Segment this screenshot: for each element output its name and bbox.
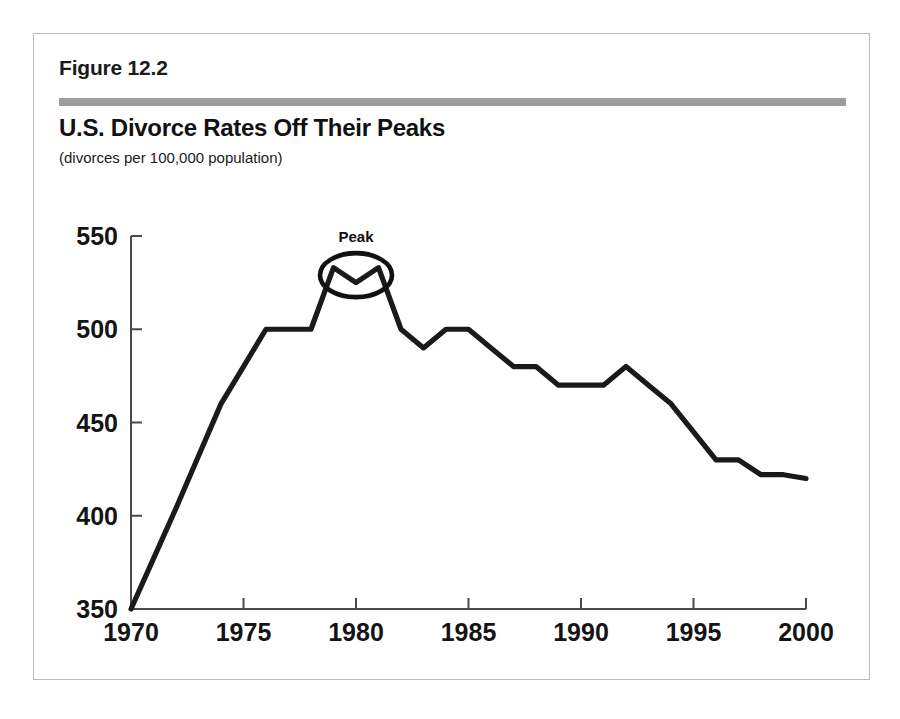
x-axis-tick-labels: 1970197519801985199019952000 xyxy=(103,618,834,646)
y-tick-label: 400 xyxy=(76,502,118,530)
figure-frame: Figure 12.2 U.S. Divorce Rates Off Their… xyxy=(33,33,870,680)
plot-area: 350400450500550 197019751980198519901995… xyxy=(34,34,871,681)
y-tick-label: 450 xyxy=(76,409,118,437)
x-tick-label: 1970 xyxy=(103,618,159,646)
y-tick-label: 500 xyxy=(76,315,118,343)
axis-tick-marks xyxy=(131,236,806,609)
x-tick-label: 1980 xyxy=(328,618,384,646)
y-axis-tick-labels: 350400450500550 xyxy=(76,222,118,623)
line-chart-svg: 350400450500550 197019751980198519901995… xyxy=(34,34,871,681)
x-tick-label: 1995 xyxy=(666,618,722,646)
peak-annotation-label: Peak xyxy=(338,228,374,245)
x-tick-label: 1975 xyxy=(216,618,272,646)
x-tick-label: 2000 xyxy=(778,618,834,646)
divorce-rate-line xyxy=(131,268,806,609)
x-tick-label: 1985 xyxy=(441,618,497,646)
y-tick-label: 550 xyxy=(76,222,118,250)
x-tick-label: 1990 xyxy=(553,618,609,646)
